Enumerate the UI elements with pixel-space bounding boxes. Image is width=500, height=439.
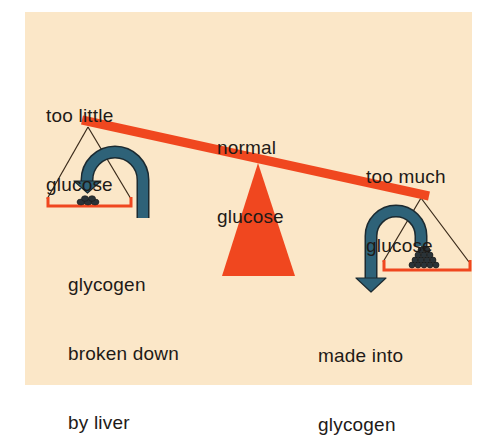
label-line: broken down (68, 342, 179, 365)
label-line: glucose (366, 234, 446, 257)
label-line: glycogen (318, 413, 403, 436)
label-line: by liver (68, 411, 179, 434)
label-too-little-glucose: too little glucose (46, 58, 113, 219)
label-line: too much (366, 165, 446, 188)
label-made-into-glycogen: made into glycogen (318, 298, 403, 439)
label-normal-glucose: normal glucose (217, 90, 284, 251)
label-line: normal (217, 136, 284, 159)
label-line: too little (46, 104, 113, 127)
label-too-much-glucose: too much glucose (366, 119, 446, 280)
label-glycogen-broken-down: glycogen broken down by liver (68, 227, 179, 439)
label-line: glycogen (68, 273, 179, 296)
label-line: made into (318, 344, 403, 367)
label-line: glucose (217, 205, 284, 228)
label-line: glucose (46, 173, 113, 196)
